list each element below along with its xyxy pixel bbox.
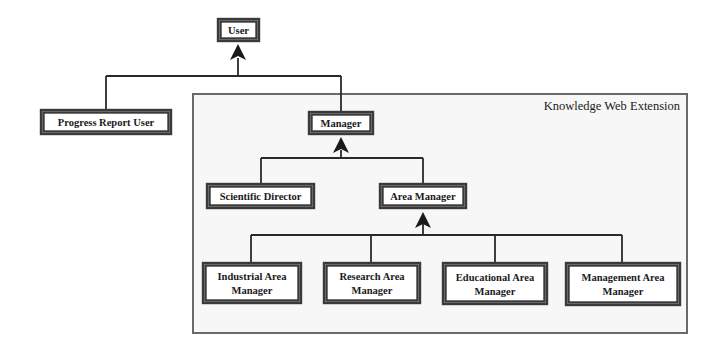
node-manager: Manager — [309, 112, 373, 134]
node-label: Scientific Director — [220, 191, 302, 202]
node-user: User — [218, 19, 259, 41]
node-industrial-area-manager: Industrial AreaManager — [203, 263, 301, 303]
node-label: Management Area — [582, 272, 666, 283]
node-label: Manager — [321, 118, 362, 129]
inheritance-arrow-icon — [230, 44, 246, 60]
node-label: Manager — [475, 286, 516, 297]
node-label: Manager — [352, 285, 393, 296]
node-progress-report-user: Progress Report User — [41, 110, 171, 134]
node-label: Manager — [232, 285, 273, 296]
node-label: Educational Area — [456, 272, 535, 283]
node-management-area-manager: Management AreaManager — [566, 263, 680, 305]
node-research-area-manager: Research AreaManager — [324, 263, 420, 303]
node-label: User — [228, 25, 249, 36]
container-label: Knowledge Web Extension — [544, 99, 681, 113]
node-label: Manager — [603, 286, 644, 297]
node-label: Area Manager — [390, 191, 456, 202]
node-label: Progress Report User — [58, 117, 155, 128]
node-label: Research Area — [339, 271, 405, 282]
node-label: Industrial Area — [218, 271, 288, 282]
node-educational-area-manager: Educational AreaManager — [443, 263, 547, 304]
class-hierarchy-diagram: Knowledge Web Extension — [0, 0, 721, 350]
node-scientific-director: Scientific Director — [207, 184, 314, 208]
node-area-manager: Area Manager — [380, 184, 466, 208]
